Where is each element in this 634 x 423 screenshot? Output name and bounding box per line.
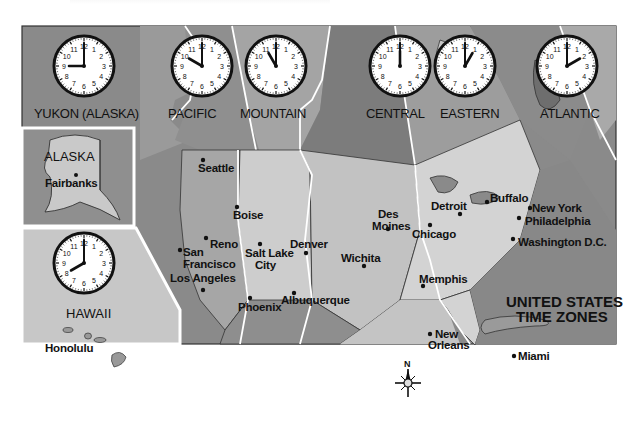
svg-text:4: 4 xyxy=(217,73,221,80)
svg-text:7: 7 xyxy=(388,80,392,87)
svg-text:1: 1 xyxy=(284,46,288,53)
svg-text:6: 6 xyxy=(200,83,204,90)
svg-text:6: 6 xyxy=(565,83,569,90)
svg-text:9: 9 xyxy=(254,63,258,70)
city-wichita: Wichita xyxy=(341,252,381,264)
svg-text:10: 10 xyxy=(255,53,263,60)
svg-text:2: 2 xyxy=(99,53,103,60)
svg-text:1: 1 xyxy=(210,46,214,53)
svg-text:10: 10 xyxy=(546,53,554,60)
svg-text:11: 11 xyxy=(188,46,195,53)
city-new-orleans-line2: Orleans xyxy=(428,339,469,351)
svg-text:10: 10 xyxy=(181,53,189,60)
svg-text:11: 11 xyxy=(553,46,560,53)
compass-rose-icon: N xyxy=(395,359,421,397)
city-memphis: Memphis xyxy=(419,273,467,285)
svg-text:8: 8 xyxy=(65,73,69,80)
svg-text:7: 7 xyxy=(453,80,457,87)
svg-text:3: 3 xyxy=(483,63,487,70)
svg-text:4: 4 xyxy=(99,270,103,277)
svg-text:7: 7 xyxy=(264,80,268,87)
city-philadelphia: Philadelphia xyxy=(525,215,591,227)
svg-text:5: 5 xyxy=(284,80,288,87)
svg-text:1: 1 xyxy=(473,46,477,53)
clock-atlantic: 123456789101112 xyxy=(537,36,597,96)
svg-text:6: 6 xyxy=(398,83,402,90)
svg-text:7: 7 xyxy=(555,80,559,87)
city-los-angeles: Los Angeles xyxy=(170,272,236,284)
city-phoenix: Phoenix xyxy=(238,301,282,313)
svg-text:2: 2 xyxy=(415,53,419,60)
clock-eastern: 123456789101112 xyxy=(435,36,495,96)
cropped-caption-strip xyxy=(70,0,330,4)
svg-text:7: 7 xyxy=(72,80,76,87)
svg-text:2: 2 xyxy=(582,53,586,60)
svg-text:11: 11 xyxy=(451,46,458,53)
svg-text:2: 2 xyxy=(480,53,484,60)
svg-text:9: 9 xyxy=(62,260,66,267)
svg-text:10: 10 xyxy=(63,53,71,60)
city-seattle: Seattle xyxy=(198,162,234,174)
svg-text:7: 7 xyxy=(190,80,194,87)
svg-text:11: 11 xyxy=(70,46,77,53)
city-new-york: New York xyxy=(532,202,583,214)
zone-label: YUKON (ALASKA) xyxy=(34,106,139,121)
svg-text:3: 3 xyxy=(220,63,224,70)
svg-text:6: 6 xyxy=(82,83,86,90)
svg-text:3: 3 xyxy=(102,63,106,70)
clock-hawaii: 123456789101112 xyxy=(54,233,114,293)
city-albuquerque: Albuquerque xyxy=(281,294,350,306)
map-canvas: ALASKA Fairbanks HAWAII Honolulu Seattle… xyxy=(0,0,634,423)
city-buffalo: Buffalo xyxy=(490,192,528,204)
svg-text:2: 2 xyxy=(291,53,295,60)
city-reno: Reno xyxy=(210,238,238,250)
svg-text:8: 8 xyxy=(446,73,450,80)
compass-north-label: N xyxy=(404,359,411,369)
svg-text:10: 10 xyxy=(444,53,452,60)
city-detroit: Detroit xyxy=(431,200,467,212)
svg-text:9: 9 xyxy=(443,63,447,70)
svg-text:8: 8 xyxy=(548,73,552,80)
svg-text:10: 10 xyxy=(379,53,387,60)
svg-text:9: 9 xyxy=(180,63,184,70)
zone-label: EASTERN xyxy=(440,106,499,121)
svg-text:4: 4 xyxy=(415,73,419,80)
svg-text:2: 2 xyxy=(217,53,221,60)
hawaii-label: HAWAII xyxy=(66,306,111,321)
svg-text:5: 5 xyxy=(92,80,96,87)
svg-text:8: 8 xyxy=(381,73,385,80)
svg-text:1: 1 xyxy=(575,46,579,53)
svg-text:11: 11 xyxy=(70,243,77,250)
svg-text:9: 9 xyxy=(378,63,382,70)
svg-text:8: 8 xyxy=(183,73,187,80)
alaska-label: ALASKA xyxy=(44,149,95,164)
svg-text:3: 3 xyxy=(294,63,298,70)
zone-label: ATLANTIC xyxy=(540,106,599,121)
svg-text:3: 3 xyxy=(102,260,106,267)
alaska-inset: ALASKA Fairbanks xyxy=(22,128,134,226)
svg-text:11: 11 xyxy=(262,46,269,53)
svg-text:4: 4 xyxy=(291,73,295,80)
svg-text:8: 8 xyxy=(257,73,261,80)
svg-text:5: 5 xyxy=(92,277,96,284)
svg-text:11: 11 xyxy=(386,46,393,53)
svg-text:1: 1 xyxy=(92,46,96,53)
city-miami: Miami xyxy=(518,350,550,362)
map-title-line2: TIME ZONES xyxy=(516,308,608,325)
time-zone-map: ALASKA Fairbanks HAWAII Honolulu Seattle… xyxy=(0,0,634,423)
city-denver: Denver xyxy=(290,238,329,250)
svg-text:1: 1 xyxy=(92,243,96,250)
city-fairbanks: Fairbanks xyxy=(45,177,98,189)
city-washington-dc: Washington D.C. xyxy=(518,236,607,248)
svg-text:5: 5 xyxy=(210,80,214,87)
svg-text:4: 4 xyxy=(582,73,586,80)
svg-text:9: 9 xyxy=(545,63,549,70)
svg-text:5: 5 xyxy=(575,80,579,87)
zone-label: MOUNTAIN xyxy=(240,106,306,121)
zone-label: CENTRAL xyxy=(366,106,425,121)
svg-text:5: 5 xyxy=(408,80,412,87)
city-des-moines-line2: Moines xyxy=(372,220,410,232)
city-boise: Boise xyxy=(233,209,263,221)
svg-text:6: 6 xyxy=(82,280,86,287)
svg-text:8: 8 xyxy=(65,270,69,277)
